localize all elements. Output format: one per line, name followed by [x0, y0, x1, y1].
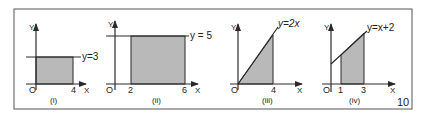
x-axis-label: X	[195, 86, 201, 95]
shaded-region	[131, 36, 185, 84]
equation-label: y=3	[82, 51, 99, 62]
y-axis-label: Y	[231, 23, 237, 32]
origin-label: O	[323, 85, 330, 95]
x-tick-6: 6	[182, 85, 187, 95]
x-axis-label: X	[390, 86, 396, 95]
shaded-region	[341, 33, 364, 84]
equation-label: y = 5	[190, 30, 212, 41]
y-axis-label: Y	[108, 20, 114, 29]
panel-iv: Y y=x+2 O 1 3 X (iv)	[322, 22, 396, 105]
figure-canvas: Y y=3 O 4 X (i) Y y = 5 O 2 6 X (ii) Y y…	[0, 0, 422, 118]
panel-caption: (iii)	[262, 96, 273, 105]
panel-caption: (iv)	[349, 96, 360, 105]
panel-ii: Y y = 5 O 2 6 X (ii)	[106, 20, 212, 105]
x-axis-label: X	[297, 86, 303, 95]
x-tick-3: 3	[361, 85, 366, 95]
figure-number: 10	[397, 96, 409, 108]
panel-caption: (i)	[50, 96, 57, 105]
origin-label: O	[29, 85, 36, 95]
x-tick-4: 4	[271, 85, 276, 95]
x-axis-label: X	[84, 86, 90, 95]
y-axis-label: Y	[29, 23, 35, 32]
y-axis-label: Y	[324, 23, 330, 32]
panel-iii: Y y=2x O 4 X (iii)	[230, 18, 303, 105]
equation-label: y=2x	[277, 18, 300, 29]
equation-label: y=x+2	[367, 22, 395, 33]
panel-i: Y y=3 O 4 X (i)	[26, 23, 99, 105]
x-tick-1: 1	[338, 85, 343, 95]
x-tick-4: 4	[71, 85, 76, 95]
panel-caption: (ii)	[152, 96, 161, 105]
origin-label: O	[106, 85, 113, 95]
shaded-region	[36, 57, 73, 84]
x-tick-2: 2	[128, 85, 133, 95]
origin-label: O	[231, 85, 238, 95]
